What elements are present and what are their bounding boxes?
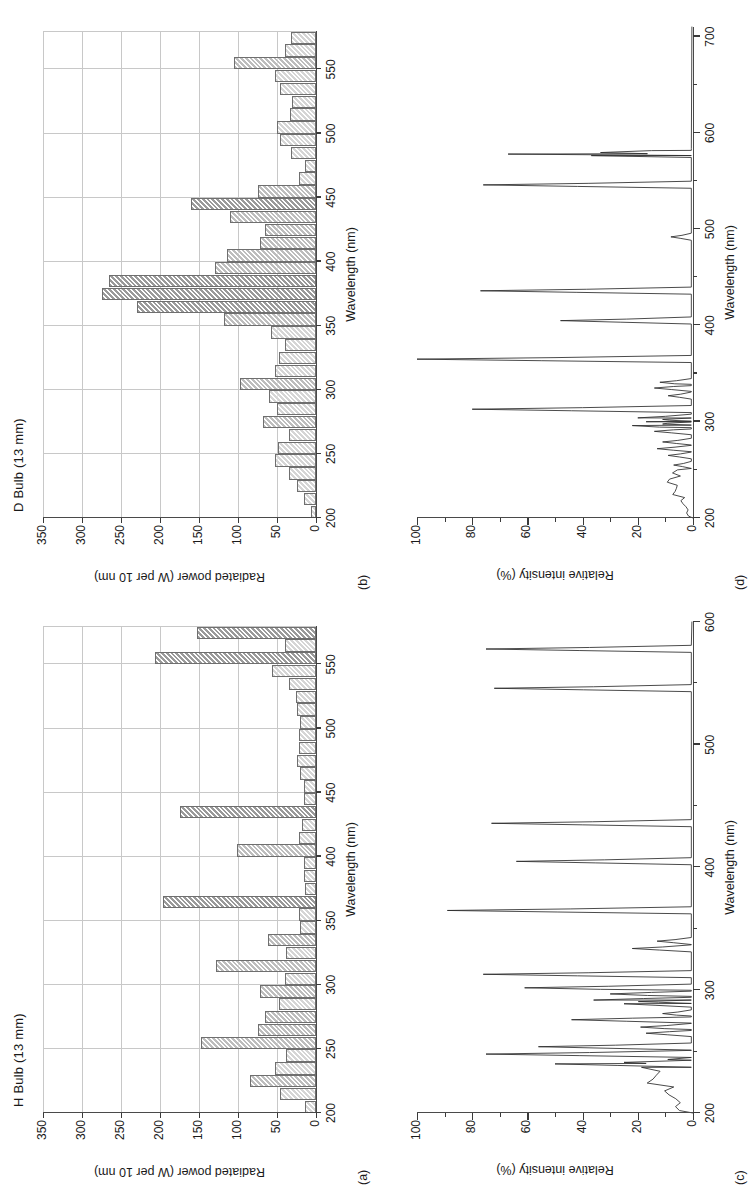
y-axis-tick	[43, 1113, 44, 1118]
gridline-x	[43, 919, 316, 920]
y-axis-tick-label: 100	[230, 1120, 244, 1153]
gridline-x	[43, 983, 316, 984]
y-axis-tick	[43, 518, 44, 523]
y-axis-tick	[82, 1113, 83, 1118]
histogram-bar	[179, 805, 316, 817]
histogram-bar	[275, 69, 316, 81]
y-axis-tick-label: 200	[152, 525, 166, 558]
histogram-bar	[279, 998, 316, 1010]
x-axis-tick-label: 250	[324, 1032, 338, 1064]
x-axis-tick	[693, 131, 700, 132]
x-axis-tick-label: 450	[324, 181, 338, 213]
y-axis-label: Radiated power (W per 10 nm)	[43, 570, 316, 584]
x-axis-tick-label: 600	[703, 114, 717, 150]
x-axis-tick-label: 550	[324, 648, 338, 680]
y-axis-tick	[316, 518, 317, 523]
histogram-bar	[275, 454, 316, 466]
histogram-bar	[259, 985, 315, 997]
histogram-bar	[136, 300, 315, 312]
x-axis-tick-label: 350	[324, 904, 338, 936]
histogram-bar	[267, 934, 315, 946]
x-axis-tick	[693, 35, 700, 36]
y-axis-tick-label: 60	[519, 1120, 533, 1155]
panel-label: (a)	[356, 1169, 370, 1184]
histogram-bar	[264, 223, 315, 235]
plot-area-panel-b	[43, 31, 316, 518]
histogram-bar	[280, 1087, 316, 1099]
y-axis-tick	[277, 518, 278, 523]
y-axis-tick	[583, 518, 584, 525]
histogram-bar	[258, 185, 316, 197]
histogram-bar	[275, 1062, 316, 1074]
y-axis-minor-tick	[445, 1113, 446, 1117]
x-axis-label: Wavelength (nm)	[723, 27, 737, 518]
panel-d-quadrant: 200300400500600700020406080100Wavelength…	[377, 0, 755, 595]
gridline-x	[43, 791, 316, 792]
y-axis-tick	[472, 518, 473, 525]
y-axis-tick-label: 0	[308, 525, 322, 558]
y-axis-tick	[638, 1113, 639, 1120]
x-axis-tick	[693, 866, 700, 867]
x-axis-tick	[316, 727, 321, 728]
y-axis-minor-tick	[665, 518, 666, 522]
y-axis-tick-label: 0	[685, 525, 699, 560]
y-axis-tick-label: 150	[191, 525, 205, 558]
y-axis-tick-label: 350	[35, 1120, 49, 1153]
y-axis-tick	[638, 518, 639, 525]
histogram-bar	[297, 754, 316, 766]
histogram-bar	[284, 972, 315, 984]
x-axis-tick-label: 300	[703, 972, 717, 1008]
x-axis-tick	[316, 663, 321, 664]
histogram-bar	[274, 364, 315, 376]
x-axis-tick-label: 500	[324, 117, 338, 149]
plot-frame-top	[43, 626, 44, 1113]
histogram-bar	[303, 870, 315, 882]
y-axis-tick-label: 100	[230, 525, 244, 558]
y-axis-tick	[583, 1113, 584, 1120]
x-axis-tick	[693, 227, 700, 228]
x-axis-tick	[316, 260, 321, 261]
histogram-bar	[270, 326, 315, 338]
histogram-bar	[277, 403, 316, 415]
y-axis-tick	[199, 518, 200, 523]
x-axis-minor-tick	[693, 927, 697, 928]
histogram-bar	[249, 1075, 315, 1087]
panel-a-quadrant: 2002503003504004505005500501001502002503…	[0, 595, 377, 1190]
x-axis-tick	[316, 983, 321, 984]
y-axis-tick-label: 60	[519, 525, 533, 560]
x-axis-tick-label: 700	[703, 18, 717, 54]
histogram-bar	[305, 159, 316, 171]
x-axis-tick	[693, 324, 700, 325]
y-axis-tick	[693, 518, 694, 525]
histogram-bar	[230, 210, 316, 222]
x-axis-tick	[316, 919, 321, 920]
x-axis-tick-label: 500	[703, 211, 717, 247]
x-axis-tick-label: 550	[324, 53, 338, 85]
histogram-bar	[284, 339, 315, 351]
histogram-bar	[279, 351, 316, 363]
histogram-bar	[272, 664, 316, 676]
histogram-bar	[240, 377, 316, 389]
y-axis-minor-tick	[445, 518, 446, 522]
y-axis-tick	[417, 518, 418, 525]
histogram-bar	[300, 767, 316, 779]
histogram-bar	[295, 690, 315, 702]
y-axis-label: Radiated power (W per 10 nm)	[43, 1165, 316, 1179]
x-axis-minor-tick	[693, 83, 697, 84]
x-axis-tick-label: 600	[703, 604, 717, 640]
y-axis-tick	[316, 1113, 317, 1118]
x-axis-line	[316, 626, 317, 1113]
y-axis-tick	[121, 1113, 122, 1118]
histogram-bar	[289, 467, 316, 479]
spectrum-trace-panel-c	[417, 622, 693, 1113]
x-axis-minor-tick	[693, 1050, 697, 1051]
histogram-bar	[101, 287, 316, 299]
x-axis-tick-label: 400	[703, 307, 717, 343]
histogram-bar	[280, 134, 316, 146]
plot-frame-right	[43, 31, 316, 32]
spectrum-line	[447, 622, 693, 1113]
histogram-bar	[201, 1036, 316, 1048]
y-axis-tick	[160, 518, 161, 523]
histogram-bar	[284, 639, 315, 651]
x-axis-tick-label: 400	[324, 245, 338, 277]
